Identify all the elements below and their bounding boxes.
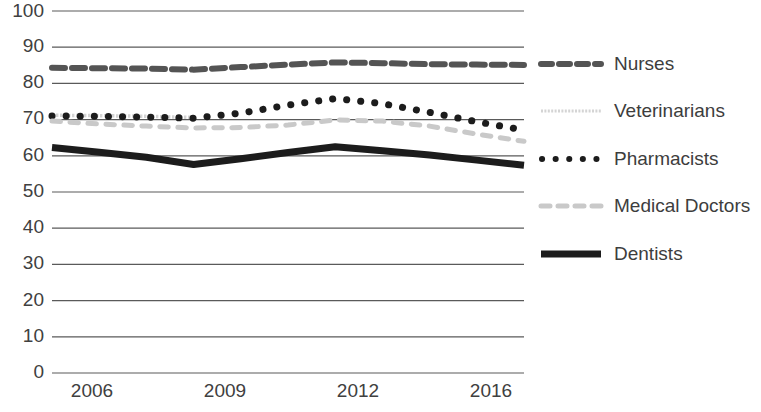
legend-item-nurses[interactable]: Nurses [540, 40, 761, 88]
dashed-light-swatch [540, 199, 602, 213]
legend-item-dentists[interactable]: Dentists [540, 230, 761, 278]
series-line-dentists [52, 147, 524, 165]
legend-label: Medical Doctors [614, 195, 750, 217]
legend-item-veterinarians[interactable]: Veterinarians [540, 88, 761, 136]
legend-item-medical-doctors[interactable]: Medical Doctors [540, 183, 761, 231]
legend-label: Veterinarians [614, 100, 725, 122]
legend-label: Dentists [614, 243, 683, 265]
chart-legend: Nurses Veterinarians Pharmacists Medical… [540, 40, 761, 278]
dotted-dark-swatch [540, 152, 602, 166]
dashed-dark-swatch [540, 57, 602, 71]
series-line-nurses [52, 62, 524, 69]
series-layer [52, 62, 524, 165]
legend-item-pharmacists[interactable]: Pharmacists [540, 135, 761, 183]
line-chart: 100 90 80 70 60 50 40 30 20 10 0 2006 20… [0, 0, 761, 412]
thin-light-swatch [540, 104, 602, 118]
series-line-medical-doctors [52, 120, 524, 141]
legend-label: Pharmacists [614, 148, 719, 170]
solid-thick-swatch [540, 247, 602, 261]
legend-label: Nurses [614, 53, 674, 75]
